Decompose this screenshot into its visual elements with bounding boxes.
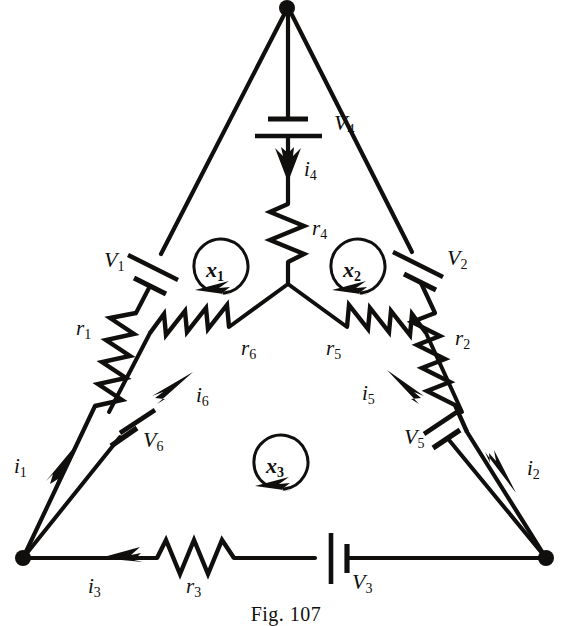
label-i1: i1 <box>14 454 27 480</box>
branch-bottom-outer <box>23 533 546 584</box>
current-arrow-i6 <box>152 372 193 404</box>
current-arrow-i5 <box>387 370 424 404</box>
wire-r2-to-bottom-right <box>467 432 546 558</box>
label-i3: i3 <box>88 574 101 600</box>
label-i5: i5 <box>362 381 375 407</box>
figure-caption: Fig. 107 <box>0 603 572 626</box>
label-V3: V3 <box>352 569 372 596</box>
branch-left-inner <box>23 284 288 558</box>
resistor-r6 <box>150 305 229 335</box>
mesh-loop-x1 <box>194 239 248 295</box>
wire-top-to-V1 <box>161 9 287 254</box>
battery-V5-long-plate <box>424 412 457 434</box>
label-x2: x2 <box>342 257 361 284</box>
label-i4: i4 <box>304 157 317 183</box>
branch-right-outer <box>289 9 546 558</box>
label-r4: r4 <box>312 216 327 242</box>
label-r2: r2 <box>455 326 470 352</box>
resistor-r1 <box>95 313 136 406</box>
label-r5: r5 <box>326 336 341 362</box>
battery-V2-long-plate <box>393 252 443 277</box>
node-dot-bottom-right <box>538 550 554 566</box>
label-x1: x1 <box>205 257 224 284</box>
label-V2: V2 <box>447 245 467 272</box>
battery-V5-short-plate <box>433 430 460 448</box>
branch-left-outer <box>23 9 287 558</box>
mesh-loop-x3 <box>254 435 308 491</box>
wire-center-to-r6 <box>229 284 288 327</box>
label-r6: r6 <box>241 336 256 362</box>
label-i2: i2 <box>527 456 540 482</box>
label-V6: V6 <box>143 427 163 454</box>
wire-V1-to-r1 <box>136 286 150 313</box>
resistor-r5 <box>347 305 426 335</box>
mesh-loop-x2 <box>331 239 385 295</box>
node-dot-top <box>279 0 295 16</box>
node-dot-bottom-left <box>15 550 31 566</box>
label-V5: V5 <box>404 424 424 451</box>
resistor-r4 <box>270 204 304 262</box>
resistor-r3 <box>157 540 234 574</box>
label-V1: V1 <box>104 247 124 274</box>
label-r3: r3 <box>186 574 201 600</box>
label-r1: r1 <box>76 316 91 342</box>
label-V4: V4 <box>334 110 354 137</box>
label-x3: x3 <box>265 453 284 480</box>
label-i6: i6 <box>196 383 209 409</box>
